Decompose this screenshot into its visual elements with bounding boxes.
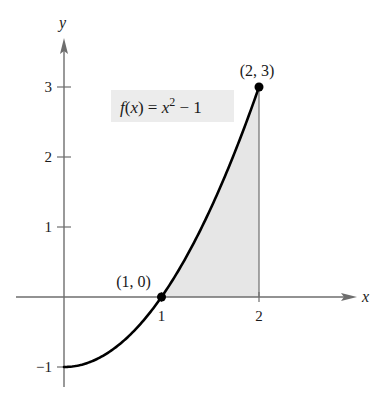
y-tick-label: 3 [45,79,53,95]
point-label: (1, 0) [116,273,151,291]
y-tick-label: −1 [36,359,52,375]
data-point [255,83,264,92]
chart: xy12−1123 f(x) = x2 − 1 (1, 0)(2, 3) [0,0,381,403]
y-tick-label: 2 [45,149,53,165]
point-label: (2, 3) [240,62,275,80]
function-label-suffix: − 1 [175,98,202,117]
x-axis-label: x [361,288,369,305]
y-axis-label: y [57,14,67,32]
x-tick-label: 2 [255,308,263,324]
function-label-box: f(x) = x2 − 1 [111,90,234,122]
data-point [157,293,166,302]
x-tick-label: 1 [158,308,166,324]
function-label: f(x) = x2 − 1 [120,95,202,117]
y-tick-label: 1 [45,219,53,235]
